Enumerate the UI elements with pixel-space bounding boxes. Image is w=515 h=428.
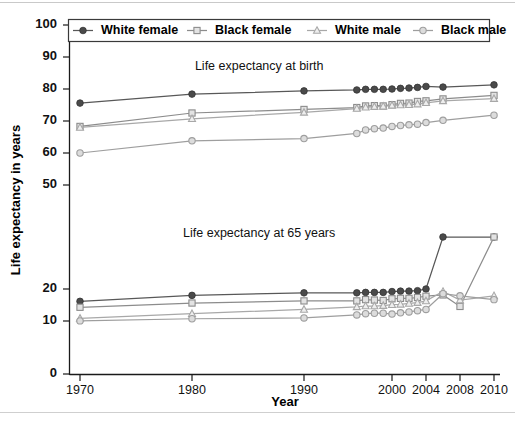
data-point-marker — [389, 288, 396, 295]
series-line-path — [80, 99, 494, 128]
y-tick-label: 90 — [43, 48, 57, 63]
series-black-male — [77, 112, 497, 324]
data-point-marker — [389, 86, 396, 93]
data-point-marker — [354, 312, 360, 318]
chart-annotation-label: Life expectancy at 65 years — [183, 226, 335, 240]
series-black-female — [77, 92, 497, 310]
x-tick-label: 1980 — [178, 383, 206, 397]
data-point-marker — [389, 123, 395, 129]
x-tick-label: 1970 — [66, 383, 94, 397]
data-point-marker — [354, 290, 361, 297]
data-point-marker — [440, 234, 447, 241]
data-point-marker — [423, 306, 429, 312]
data-point-marker — [423, 83, 430, 90]
legend-label-white-female: White female — [101, 23, 178, 37]
data-point-marker — [362, 310, 368, 316]
data-point-marker — [301, 88, 308, 95]
data-point-marker — [80, 27, 87, 34]
data-point-marker — [457, 303, 463, 309]
y-tick-label: 60 — [43, 144, 57, 159]
data-point-marker — [457, 293, 463, 299]
data-point-marker — [371, 86, 378, 93]
data-point-marker — [440, 84, 447, 91]
series-line-path — [80, 115, 494, 153]
data-point-marker — [77, 318, 83, 324]
data-point-marker — [440, 290, 446, 296]
data-point-marker — [414, 121, 420, 127]
data-series-group — [77, 82, 498, 325]
data-point-marker — [423, 286, 430, 293]
data-point-marker — [189, 316, 195, 322]
x-tick-label: 2010 — [480, 383, 508, 397]
data-point-marker — [414, 307, 420, 313]
data-point-marker — [371, 125, 377, 131]
data-point-marker — [414, 84, 421, 91]
series-white-male — [77, 95, 498, 321]
data-point-marker — [406, 85, 413, 92]
series-line-path — [80, 237, 494, 301]
life-expectancy-line-chart: 100908070605020100 197019801990200020042… — [0, 0, 515, 428]
data-point-marker — [189, 300, 195, 306]
data-point-marker — [491, 112, 497, 118]
data-point-marker — [354, 87, 361, 94]
data-point-marker — [380, 125, 386, 131]
data-point-marker — [491, 82, 498, 89]
y-axis-ticks: 100908070605020100 — [35, 16, 69, 380]
data-point-marker — [371, 310, 377, 316]
data-point-marker — [77, 150, 83, 156]
data-point-marker — [406, 288, 413, 295]
legend-label-black-male: Black male — [441, 23, 506, 37]
y-tick-label: 0 — [50, 365, 57, 380]
chart-container: 100908070605020100 197019801990200020042… — [0, 0, 515, 428]
x-axis-title: Year — [271, 394, 298, 409]
data-point-marker — [189, 91, 196, 98]
data-point-marker — [301, 135, 307, 141]
chart-annotation-label: Life expectancy at birth — [195, 59, 324, 73]
data-point-marker — [491, 234, 497, 240]
data-point-marker — [423, 119, 429, 125]
data-point-marker — [194, 27, 200, 33]
y-tick-label: 80 — [43, 80, 57, 95]
data-point-marker — [380, 86, 387, 93]
x-tick-label: 2008 — [446, 383, 474, 397]
data-point-marker — [362, 289, 369, 296]
data-point-marker — [354, 130, 360, 136]
y-tick-label: 50 — [43, 176, 57, 191]
data-point-marker — [389, 311, 395, 317]
data-point-marker — [189, 138, 195, 144]
y-tick-label: 20 — [43, 280, 57, 295]
data-point-marker — [406, 309, 412, 315]
data-point-marker — [420, 27, 426, 33]
data-point-marker — [371, 289, 378, 296]
legend-label-white-male: White male — [335, 23, 401, 37]
data-point-marker — [380, 310, 386, 316]
data-point-marker — [440, 117, 446, 123]
chart-annotations: Life expectancy at birthLife expectancy … — [183, 59, 335, 240]
data-point-marker — [491, 296, 497, 302]
data-point-marker — [362, 127, 368, 133]
data-point-marker — [397, 288, 404, 295]
data-point-marker — [301, 290, 308, 297]
legend-label-black-female: Black female — [215, 23, 291, 37]
data-point-marker — [189, 292, 196, 299]
data-point-marker — [301, 315, 307, 321]
data-point-marker — [362, 86, 369, 93]
data-point-marker — [301, 298, 307, 304]
data-point-marker — [397, 310, 403, 316]
data-point-marker — [77, 100, 84, 107]
y-axis-title: Life expectancy in years — [8, 125, 23, 275]
axes — [70, 24, 501, 375]
data-point-marker — [380, 289, 387, 296]
y-tick-label: 100 — [35, 16, 57, 31]
x-tick-label: 2004 — [412, 383, 440, 397]
series-white-female — [77, 82, 498, 305]
y-tick-label: 70 — [43, 112, 57, 127]
chart-legend: White femaleBlack femaleWhite maleBlack … — [69, 20, 507, 42]
data-point-marker — [406, 122, 412, 128]
data-point-marker — [414, 287, 421, 294]
data-point-marker — [397, 122, 403, 128]
data-point-marker — [77, 304, 83, 310]
x-tick-label: 2000 — [378, 383, 406, 397]
data-point-marker — [397, 85, 404, 92]
y-tick-label: 10 — [43, 312, 57, 327]
